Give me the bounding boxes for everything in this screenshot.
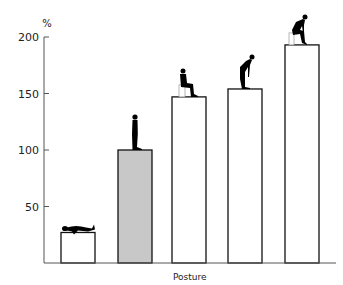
bar-standing-bent-forward	[228, 54, 262, 263]
x-axis: Posture	[44, 263, 336, 282]
sitting-bent-figure-icon	[289, 14, 308, 45]
y-unit-label: %	[42, 18, 52, 29]
posture-bar-chart: 50100150200% Posture	[0, 0, 343, 285]
bars-group	[61, 14, 319, 263]
y-tick-label: 150	[18, 88, 39, 101]
bar-rect	[228, 89, 262, 263]
y-tick-label: 100	[18, 144, 39, 157]
bar-sitting-bent-forward	[285, 14, 319, 263]
bar-rect	[61, 232, 95, 263]
y-tick-label: 50	[25, 201, 39, 214]
bar-standing	[118, 114, 152, 263]
bar-rect	[118, 150, 152, 263]
bar-rect	[285, 45, 319, 263]
standing-figure-icon	[132, 114, 142, 150]
bar-lying	[61, 224, 95, 263]
y-tick-label: 200	[18, 31, 39, 44]
y-axis: 50100150200%	[18, 18, 52, 263]
bar-sitting	[172, 68, 206, 263]
sitting-figure-icon	[179, 68, 198, 97]
x-axis-title: Posture	[173, 272, 207, 282]
bar-rect	[172, 97, 206, 263]
bending-figure-icon	[240, 54, 255, 89]
